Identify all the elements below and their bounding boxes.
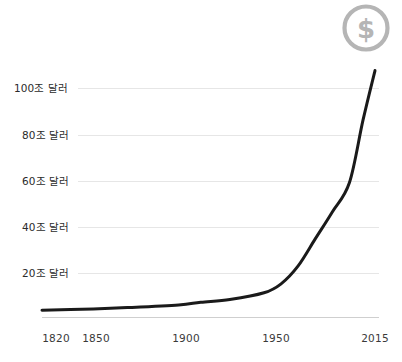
x-axis-labels: 1820 1850 1900 1950 2015 xyxy=(42,332,389,344)
chart-canvas: 100조 달러 80조 달러 60조 달러 40조 달러 20조 달러 1820… xyxy=(0,0,402,362)
x-tick-label-1820: 1820 xyxy=(42,332,70,344)
dollar-sign-icon: $ xyxy=(357,14,375,44)
dollar-badge: $ xyxy=(345,7,388,50)
x-tick-label-1850: 1850 xyxy=(82,332,110,344)
gdp-line-series xyxy=(42,71,375,311)
x-tick-label-2015: 2015 xyxy=(361,332,389,344)
gridlines xyxy=(78,89,379,274)
x-tick-label-1900: 1900 xyxy=(172,332,200,344)
y-tick-label-20: 20조 달러 xyxy=(22,267,69,279)
gdp-growth-chart: 100조 달러 80조 달러 60조 달러 40조 달러 20조 달러 1820… xyxy=(0,0,402,362)
y-tick-label-60: 60조 달러 xyxy=(22,175,69,187)
y-tick-label-80: 80조 달러 xyxy=(22,129,69,141)
x-tick-label-1950: 1950 xyxy=(262,332,290,344)
y-axis-labels: 100조 달러 80조 달러 60조 달러 40조 달러 20조 달러 xyxy=(14,82,69,279)
y-tick-label-100: 100조 달러 xyxy=(14,82,68,94)
y-tick-label-40: 40조 달러 xyxy=(22,221,69,233)
